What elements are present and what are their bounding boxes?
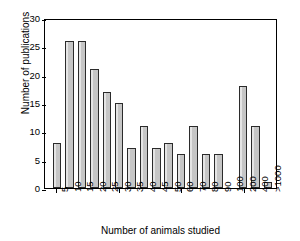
x-tick-label: 15 bbox=[85, 181, 95, 192]
y-tick-mark bbox=[42, 20, 46, 21]
bar-slot bbox=[88, 20, 100, 188]
y-tick-label: 0 bbox=[18, 184, 40, 194]
bar-slot bbox=[237, 20, 249, 188]
bar-slot bbox=[200, 20, 212, 188]
x-tick-label: 400 bbox=[260, 176, 270, 192]
plot-area bbox=[44, 19, 277, 189]
bar-slot bbox=[249, 20, 261, 188]
x-tick-label: 200 bbox=[248, 176, 258, 192]
bar-slot bbox=[150, 20, 162, 188]
bar-slot bbox=[51, 20, 63, 188]
bar-slot bbox=[224, 20, 236, 188]
x-tick-label: 5 bbox=[60, 187, 70, 192]
bar[interactable] bbox=[140, 126, 149, 188]
bar-slot bbox=[187, 20, 199, 188]
bar-slot bbox=[175, 20, 187, 188]
x-tick-label: 70 bbox=[198, 181, 208, 192]
x-tick-label: 60 bbox=[185, 181, 195, 192]
y-tick-mark bbox=[42, 105, 46, 106]
bar-chart-figure: Number of publications 051015202530 5101… bbox=[0, 0, 300, 241]
bar[interactable] bbox=[90, 69, 99, 188]
x-tick-label: 80 bbox=[210, 181, 220, 192]
bars-container bbox=[45, 20, 276, 188]
y-axis-tick-labels: 051015202530 bbox=[18, 14, 40, 189]
bar-slot bbox=[113, 20, 125, 188]
bar[interactable] bbox=[103, 92, 112, 188]
bar-slot bbox=[212, 20, 224, 188]
y-tick-mark bbox=[42, 162, 46, 163]
x-tick-label: 40 bbox=[148, 181, 158, 192]
x-axis-title: Number of animals studied bbox=[44, 225, 277, 236]
x-tick-label: 45 bbox=[160, 181, 170, 192]
x-tick-label: 10 bbox=[73, 181, 83, 192]
y-tick-mark bbox=[42, 133, 46, 134]
y-tick-label: 10 bbox=[18, 128, 40, 138]
x-tick-label: >1000 bbox=[273, 165, 283, 192]
y-tick-label: 5 bbox=[18, 156, 40, 166]
bar-slot bbox=[163, 20, 175, 188]
x-tick-label: 30 bbox=[123, 181, 133, 192]
x-tick-label: 100 bbox=[235, 176, 245, 192]
y-tick-label: 20 bbox=[18, 71, 40, 81]
y-tick-mark bbox=[42, 48, 46, 49]
bar-slot bbox=[262, 20, 274, 188]
y-tick-mark bbox=[42, 77, 46, 78]
x-tick-label: 90 bbox=[223, 181, 233, 192]
bar-slot bbox=[76, 20, 88, 188]
y-tick-label: 30 bbox=[18, 14, 40, 24]
y-tick-label: 25 bbox=[18, 43, 40, 53]
bar[interactable] bbox=[189, 126, 198, 188]
x-tick-label: 20 bbox=[98, 181, 108, 192]
bar[interactable] bbox=[78, 41, 87, 188]
bar-slot bbox=[63, 20, 75, 188]
y-tick-label: 15 bbox=[18, 99, 40, 109]
bar-slot bbox=[101, 20, 113, 188]
bar[interactable] bbox=[53, 143, 62, 188]
bar-slot bbox=[138, 20, 150, 188]
bar[interactable] bbox=[239, 86, 248, 188]
x-axis-tick-labels: 510152025303540455060708090100200400>100… bbox=[44, 192, 277, 224]
x-tick-label: 25 bbox=[110, 181, 120, 192]
bar[interactable] bbox=[115, 103, 124, 188]
bar-slot bbox=[125, 20, 137, 188]
bar[interactable] bbox=[65, 41, 74, 188]
x-tick-label: 35 bbox=[135, 181, 145, 192]
x-tick-label: 50 bbox=[173, 181, 183, 192]
